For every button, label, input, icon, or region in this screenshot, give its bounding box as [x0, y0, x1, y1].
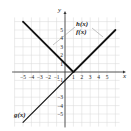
annotations: x y h(x) f(x) g(x) — [13, 6, 127, 119]
g-label: g(x) — [13, 111, 26, 119]
x-tick-label: 4 — [97, 74, 100, 80]
x-tick-label: 1 — [72, 74, 75, 80]
f-label: f(x) — [76, 28, 87, 36]
f-leader-line — [92, 28, 103, 37]
h-label: h(x) — [76, 20, 88, 28]
x-tick-label: 2 — [80, 74, 83, 80]
function-graph: −5−4−3−2−11234554321−1−3−4−5 x y h(x) f(… — [0, 0, 131, 131]
x-tick-label: 3 — [89, 74, 92, 80]
h-leader-line — [53, 27, 75, 45]
y-tick-label: −3 — [57, 94, 63, 100]
y-tick-label: −5 — [57, 111, 63, 117]
y-tick-label: −4 — [57, 103, 63, 109]
x-tick-label: −3 — [37, 74, 43, 80]
x-tick-label: −5 — [20, 74, 26, 80]
x-tick-label: −4 — [28, 74, 34, 80]
series-fx-line — [73, 30, 115, 72]
x-tick-label: 5 — [106, 74, 109, 80]
y-tick-label: 5 — [60, 27, 63, 33]
x-axis-label: x — [122, 72, 127, 80]
y-tick-label: 3 — [60, 44, 63, 50]
y-axis-label: y — [57, 6, 62, 14]
x-tick-label: −2 — [45, 74, 51, 80]
y-tick-label: 2 — [60, 52, 63, 58]
y-arrow-icon — [64, 11, 67, 14]
